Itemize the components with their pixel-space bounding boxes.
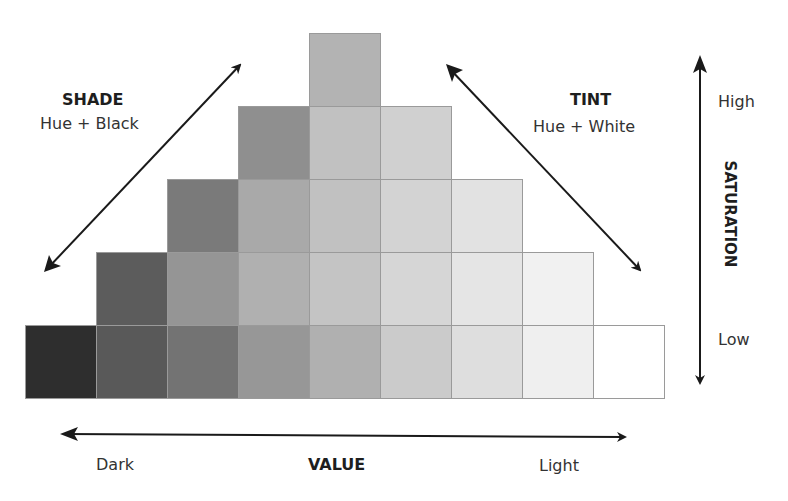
- arrows-layer: [0, 0, 788, 501]
- saturation-title: SATURATION: [721, 161, 739, 268]
- tint-subtitle: Hue + White: [533, 117, 635, 136]
- value-title: VALUE: [308, 455, 365, 474]
- color-value-saturation-diagram: SHADE Hue + Black TINT Hue + White High …: [0, 0, 788, 501]
- saturation-low-label: Low: [718, 330, 750, 349]
- tint-title: TINT: [570, 90, 611, 109]
- shade-subtitle: Hue + Black: [40, 114, 139, 133]
- value-dark-label: Dark: [96, 455, 134, 474]
- value-arrow: [63, 434, 625, 437]
- value-light-label: Light: [539, 456, 579, 475]
- saturation-high-label: High: [718, 92, 755, 111]
- tint-arrow: [449, 68, 640, 270]
- shade-title: SHADE: [62, 90, 124, 109]
